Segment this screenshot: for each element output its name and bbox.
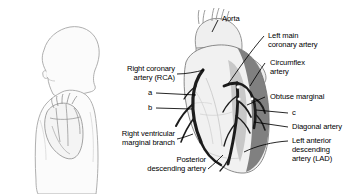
- label-marker-b: b: [148, 103, 152, 112]
- label-marker-c: c: [292, 108, 296, 117]
- label-left-main-coronary-artery: Left main coronary artery: [268, 31, 318, 49]
- label-obtuse-marginal: Obtuse marginal: [270, 92, 324, 101]
- main-heart-illustration: [176, 8, 269, 173]
- label-aorta: Aorta: [222, 14, 240, 23]
- head-profile-silhouette: [42, 27, 99, 97]
- label-left-anterior-descending-artery: Left anterior descending artery (LAD): [292, 136, 332, 164]
- label-circumflex-artery: Circumflex artery: [270, 58, 305, 76]
- coronary-artery-diagram: Aorta Left main coronary artery Circumfl…: [0, 0, 352, 194]
- rv-marginal-branch-vessel-2: [181, 118, 194, 142]
- label-right-ventricular-marginal-branch: Right ventricular marginal branch: [92, 129, 175, 147]
- label-diagonal-artery: Diagonal artery: [292, 122, 342, 131]
- label-marker-a: a: [148, 88, 152, 97]
- label-posterior-descending-artery: Posterior descending artery: [110, 155, 206, 173]
- leader-rv-marginal: [177, 134, 193, 139]
- label-right-coronary-artery: Right coronary artery (RCA): [97, 64, 175, 82]
